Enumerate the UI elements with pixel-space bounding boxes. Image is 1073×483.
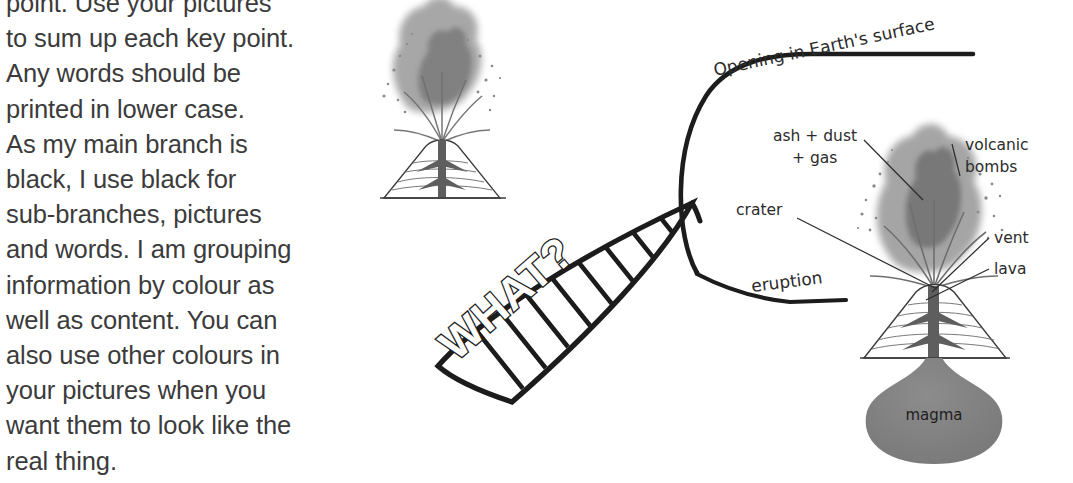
volcano-mindmap-diagram: WHAT? Opening in Earth's surface eruptio… xyxy=(360,0,1073,483)
body-line: Any words should be xyxy=(6,56,356,91)
body-line: want them to look like the xyxy=(6,408,356,443)
body-line: to sum up each key point. xyxy=(6,21,356,56)
main-branch-what[interactable]: WHAT? xyxy=(430,188,772,420)
body-line: also use other colours in xyxy=(6,338,356,373)
small-erupting-volcano xyxy=(380,0,506,198)
sub-branch-opening-label: Opening in Earth's surface xyxy=(712,13,937,79)
body-copy-text: point. Use your pictures to sum up each … xyxy=(6,0,356,479)
label-vent: vent xyxy=(994,229,1029,247)
body-line: printed in lower case. xyxy=(6,92,356,127)
label-bombs: bombs xyxy=(965,158,1017,176)
label-gas: + gas xyxy=(792,149,837,167)
body-line: well as content. You can xyxy=(6,303,356,338)
label-volcanic: volcanic xyxy=(965,136,1029,154)
main-branch-label: WHAT? xyxy=(430,226,583,368)
leaf-tail xyxy=(692,203,700,221)
label-ash-dust: ash + dust xyxy=(773,127,857,145)
body-line: As my main branch is xyxy=(6,127,356,162)
label-lava: lava xyxy=(994,260,1026,278)
magma-label: magma xyxy=(905,406,962,424)
body-line: real thing. xyxy=(6,444,356,479)
body-line: sub-branches, pictures xyxy=(6,197,356,232)
body-line: point. Use your pictures xyxy=(6,0,356,21)
sub-branch-eruption[interactable]: eruption xyxy=(697,267,846,302)
branch-junction xyxy=(695,271,700,276)
body-line: and words. I am grouping xyxy=(6,232,356,267)
mindmap-page: point. Use your pictures to sum up each … xyxy=(0,0,1073,483)
body-line: information by colour as xyxy=(6,268,356,303)
sub-branch-eruption-label: eruption xyxy=(750,267,823,296)
body-line: black, I use black for xyxy=(6,162,356,197)
body-line: your pictures when you xyxy=(6,373,356,408)
label-crater: crater xyxy=(736,201,783,219)
